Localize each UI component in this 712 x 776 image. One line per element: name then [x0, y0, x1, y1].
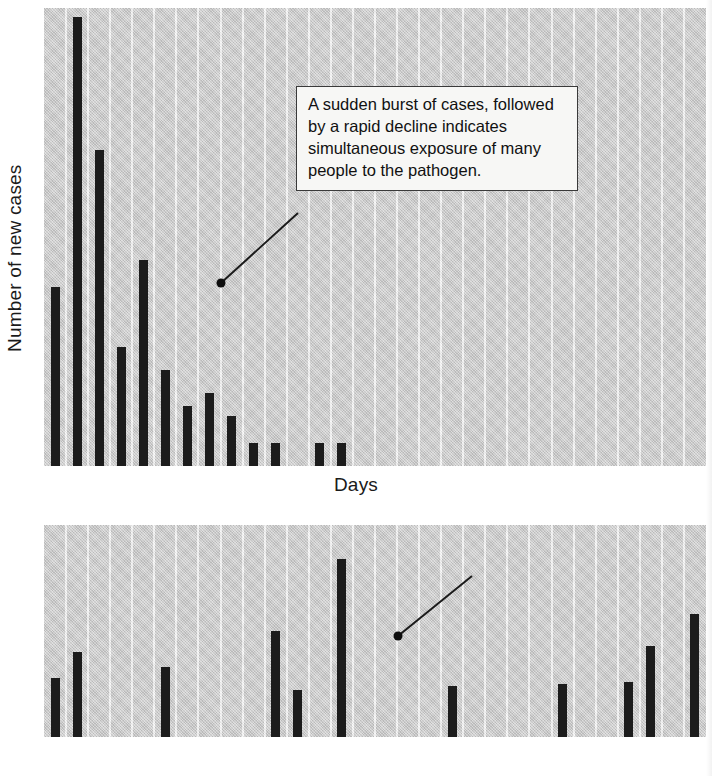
bar [227, 416, 236, 466]
x-axis-title-chart-1: Days [0, 474, 712, 496]
epidemic-curves-figure: A sudden burst of cases, followed by a r… [0, 0, 712, 776]
bars-chart-1 [44, 8, 706, 466]
bar [315, 443, 324, 466]
bar [271, 443, 280, 466]
plot-area-chart-2 [44, 525, 706, 737]
bar [448, 686, 457, 737]
figure-continuous-common-source: Continuous sporadic cases indicate a per… [0, 500, 712, 776]
y-axis-title-chart-1: Number of new cases [4, 164, 26, 352]
bars-chart-2 [44, 525, 706, 737]
bar [161, 370, 170, 466]
bar [161, 667, 170, 737]
bar [624, 682, 633, 737]
annotation-callout-chart-1: A sudden burst of cases, followed by a r… [296, 86, 578, 191]
bar [95, 150, 104, 466]
bar [73, 17, 82, 466]
bar [73, 652, 82, 737]
plot-area-chart-1 [44, 8, 706, 466]
figure-point-source-outbreak: A sudden burst of cases, followed by a r… [0, 0, 712, 500]
bar [690, 614, 699, 737]
bar [117, 347, 126, 466]
bar [205, 393, 214, 466]
bar [558, 684, 567, 737]
bar [337, 559, 346, 737]
bar [183, 406, 192, 466]
bar [271, 631, 280, 737]
bar [646, 646, 655, 737]
bar [139, 260, 148, 466]
bar [293, 690, 302, 737]
bar [51, 287, 60, 466]
bar [337, 443, 346, 466]
bar [249, 443, 258, 466]
bar [51, 678, 60, 737]
